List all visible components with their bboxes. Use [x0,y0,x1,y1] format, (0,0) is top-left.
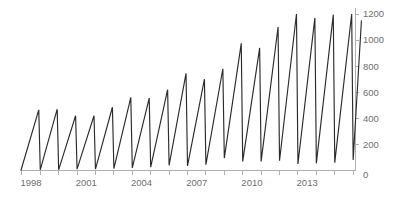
x-axis-tick-label: 2007 [186,177,207,188]
y-axis-tick-label: 1200 [363,8,384,19]
x-axis-tick-label: 2001 [76,177,97,188]
y-axis-tick-label: 200 [363,139,379,150]
x-axis-tick-label: 1998 [20,177,41,188]
sawtooth-line-chart: 0200400600800100012001998200120042007201… [0,0,398,210]
x-axis-tick-label: 2004 [131,177,152,188]
x-axis-tick-label: 2013 [297,177,318,188]
y-axis-tick-label: 1000 [363,34,384,45]
y-axis-tick-label: 800 [363,61,379,72]
chart-container: 0200400600800100012001998200120042007201… [0,0,398,210]
data-series-line [21,14,362,171]
x-axis-tick-label: 2010 [241,177,262,188]
y-axis-tick-label: 0 [363,169,368,180]
y-axis-tick-label: 600 [363,87,379,98]
y-axis-tick-label: 400 [363,113,379,124]
